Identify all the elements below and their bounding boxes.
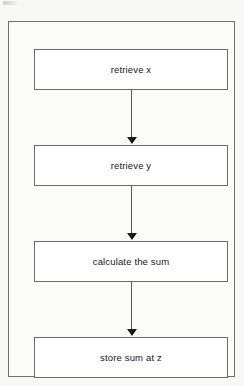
arrow-head-down-icon <box>127 137 137 144</box>
arrow-shaft <box>131 186 132 234</box>
scan-artifact <box>3 1 17 5</box>
arrow-head-down-icon <box>127 233 137 240</box>
arrow-head-down-icon <box>127 329 137 336</box>
connector-arrow-2 <box>127 186 137 241</box>
arrow-shaft <box>131 282 132 330</box>
connector-arrow-1 <box>127 90 137 145</box>
connector-arrow-3 <box>127 282 137 337</box>
arrow-shaft <box>131 90 132 138</box>
process-node-label: store sum at z <box>100 353 162 363</box>
process-node-retrieve-x[interactable]: retrieve x <box>34 49 228 90</box>
process-node-label: calculate the sum <box>93 257 169 267</box>
process-node-calculate-the-sum[interactable]: calculate the sum <box>34 241 228 282</box>
process-node-store-sum-at-z[interactable]: store sum at z <box>34 337 228 378</box>
flowchart-canvas: retrieve x retrieve y calculate the sum … <box>0 0 244 386</box>
process-node-label: retrieve x <box>111 65 152 75</box>
diagram-frame: retrieve x retrieve y calculate the sum … <box>8 21 235 377</box>
process-node-retrieve-y[interactable]: retrieve y <box>34 145 228 186</box>
process-node-label: retrieve y <box>111 161 152 171</box>
